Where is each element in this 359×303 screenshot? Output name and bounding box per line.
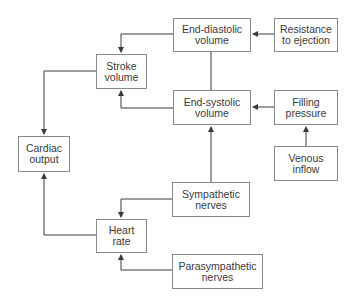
- cardiac-output-diagram: End-diastolic volume Resistance to eject…: [0, 0, 359, 303]
- arrow-heart-rate-to-cardiac-output: [44, 174, 96, 235]
- arrow-edv-to-stroke-volume: [121, 34, 173, 52]
- node-filling-pressure: Filling pressure: [274, 90, 338, 125]
- node-end-diastolic-volume: End-diastolic volume: [173, 18, 251, 52]
- arrow-esv-to-stroke-volume: [121, 91, 173, 108]
- node-stroke-volume: Stroke volume: [96, 54, 147, 89]
- arrow-stroke-volume-to-cardiac-output: [44, 71, 96, 134]
- arrow-sympathetic-to-heart-rate: [121, 199, 172, 217]
- node-sympathetic-nerves: Sympathetic nerves: [172, 182, 250, 217]
- node-cardiac-output: Cardiac output: [18, 136, 70, 172]
- node-venous-inflow: Venous inflow: [274, 146, 338, 181]
- node-resistance-to-ejection: Resistance to ejection: [274, 18, 338, 52]
- arrow-parasympathetic-to-heart-rate: [121, 255, 172, 270]
- node-end-systolic-volume: End-systolic volume: [173, 90, 251, 125]
- node-heart-rate: Heart rate: [96, 219, 147, 253]
- node-parasympathetic-nerves: Parasympathetic nerves: [172, 254, 263, 289]
